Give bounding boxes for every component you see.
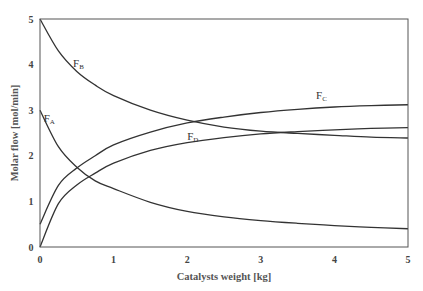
x-axis-label: Catalysts weight [kg]	[177, 271, 272, 282]
y-axis-ticks: 012345	[29, 14, 34, 253]
series-label-f-a: FA	[44, 112, 55, 126]
x-tick-label: 4	[332, 254, 337, 265]
series-line-f-a	[40, 110, 408, 229]
y-axis-label: Molar flow [mol/min]	[9, 85, 20, 182]
series-line-f-c	[40, 105, 408, 224]
x-tick-label: 5	[406, 254, 411, 265]
series-labels: FAFBFCFD	[44, 57, 327, 144]
series-label-f-c: FC	[316, 89, 327, 103]
series-lines	[40, 19, 408, 247]
plot-frame	[40, 19, 408, 247]
y-tick-label: 5	[29, 14, 34, 25]
line-chart: 012345 012345 FAFBFCFD Catalysts weight …	[0, 0, 423, 291]
y-tick-label: 2	[29, 150, 34, 161]
x-tick-label: 1	[111, 254, 116, 265]
series-label-f-b: FB	[73, 57, 84, 71]
x-tick-label: 0	[38, 254, 43, 265]
x-tick-label: 2	[185, 254, 190, 265]
y-tick-label: 1	[29, 196, 34, 207]
x-tick-label: 3	[258, 254, 263, 265]
y-tick-label: 3	[29, 105, 34, 116]
series-label-f-d: FD	[187, 130, 198, 144]
series-line-f-d	[40, 128, 408, 247]
y-tick-label: 0	[29, 242, 34, 253]
x-axis-ticks: 012345	[38, 254, 411, 265]
series-line-f-b	[40, 19, 408, 138]
y-tick-label: 4	[29, 59, 34, 70]
